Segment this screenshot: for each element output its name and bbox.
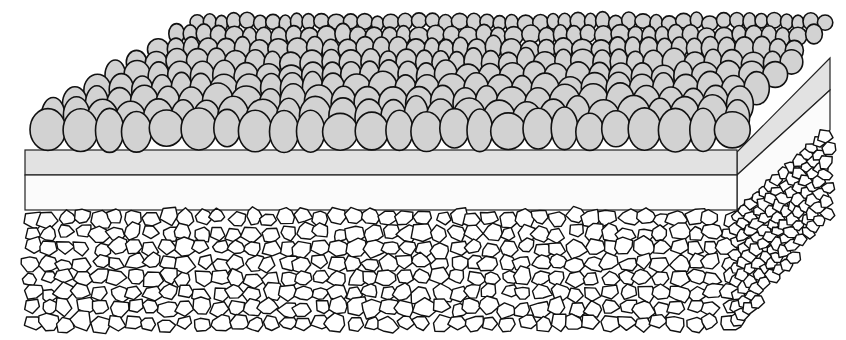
crushed-stone: [56, 298, 72, 317]
crushed-stone: [537, 316, 552, 331]
crushed-stone: [378, 316, 399, 333]
crushed-stone: [324, 313, 345, 332]
crushed-stone: [230, 315, 249, 330]
crushed-stone: [671, 238, 689, 254]
pebble: [30, 109, 66, 151]
crushed-stone: [40, 241, 57, 256]
pebble: [467, 109, 493, 152]
crushed-stone: [260, 214, 277, 225]
white-layer: [25, 175, 737, 210]
pebble: [297, 110, 325, 152]
pebble: [355, 112, 388, 150]
pebble: [214, 109, 241, 146]
crushed-stone: [227, 240, 246, 254]
crushed-stone: [485, 272, 501, 285]
crushed-stone: [701, 224, 722, 239]
crushed-stone: [499, 318, 516, 332]
pebble: [411, 112, 442, 152]
crushed-stone: [669, 286, 691, 303]
crushed-stone: [263, 316, 279, 331]
pebble: [628, 108, 661, 150]
crushed-stone: [177, 316, 192, 329]
crushed-stone: [465, 316, 483, 332]
diagram-canvas: [0, 0, 846, 340]
pebble: [714, 112, 750, 148]
crushed-stone: [311, 255, 327, 269]
crushed-stone: [226, 254, 244, 270]
crushed-stone: [819, 156, 832, 169]
crushed-stone: [413, 211, 432, 225]
crushed-stone: [634, 236, 656, 257]
crushed-stone: [294, 286, 314, 300]
crushed-stone: [126, 240, 143, 254]
crushed-stone: [244, 242, 260, 257]
crushed-stone: [281, 226, 295, 241]
pebble: [270, 111, 299, 153]
crushed-stone: [500, 241, 518, 257]
crushed-stone: [412, 317, 429, 331]
pebble: [690, 108, 717, 151]
crushed-stone: [818, 169, 833, 180]
crushed-stone: [448, 316, 468, 330]
crushed-stone: [125, 286, 142, 299]
crushed-stone: [193, 297, 211, 314]
crushed-stone: [548, 212, 565, 227]
crushed-stone: [262, 241, 282, 256]
crushed-stone: [652, 225, 667, 241]
crushed-stone: [345, 256, 361, 271]
crushed-stone: [210, 227, 225, 240]
pebble: [523, 108, 553, 149]
crushed-stone: [93, 255, 109, 268]
crushed-stone: [532, 271, 550, 285]
crushed-stone: [198, 255, 212, 270]
crushed-stone: [175, 301, 194, 316]
crushed-stone: [701, 210, 718, 225]
crushed-stone: [262, 228, 280, 243]
crushed-stone: [361, 259, 379, 271]
crushed-stone: [652, 284, 672, 299]
crushed-stone: [312, 288, 328, 300]
crushed-stone: [59, 225, 75, 237]
layered-block-diagram: [0, 0, 846, 340]
crushed-stone: [106, 270, 127, 286]
crushed-stone: [109, 316, 126, 331]
pebble: [238, 110, 272, 152]
crushed-stone: [158, 320, 176, 332]
crushed-stone: [142, 300, 158, 313]
crushed-stone: [73, 242, 89, 256]
crushed-stone: [431, 225, 447, 243]
crushed-stone: [551, 314, 566, 331]
crushed-stone: [818, 130, 833, 143]
crushed-stone: [515, 287, 530, 299]
crushed-stone: [142, 213, 161, 226]
crushed-stone: [109, 258, 124, 270]
crushed-stone: [54, 269, 74, 283]
crushed-stone: [787, 252, 801, 264]
crushed-stone: [583, 273, 598, 285]
pebble-surface-layer: [30, 12, 833, 153]
crushed-stone: [482, 317, 497, 330]
crushed-stone: [566, 239, 588, 259]
crushed-stone: [568, 288, 584, 303]
crushed-stone: [295, 318, 311, 330]
crushed-stone: [481, 283, 496, 297]
crushed-stone: [631, 269, 651, 284]
crushed-stone: [619, 258, 637, 270]
crushed-stone: [40, 226, 56, 241]
crushed-stone: [437, 212, 451, 225]
gray-layer: [25, 150, 737, 175]
pebble: [412, 13, 427, 28]
crushed-stone: [635, 318, 651, 332]
pebble: [658, 108, 692, 152]
pebble: [491, 113, 526, 150]
crushed-stone: [316, 301, 329, 314]
crushed-stone: [22, 273, 36, 286]
crushed-stone: [362, 299, 382, 319]
pebble: [122, 112, 152, 153]
crushed-stone: [381, 242, 399, 254]
crushed-stone: [211, 315, 231, 331]
crushed-stone: [649, 258, 669, 274]
crushed-stone: [464, 239, 481, 253]
crushed-stone: [449, 269, 464, 283]
pebble: [440, 109, 469, 148]
